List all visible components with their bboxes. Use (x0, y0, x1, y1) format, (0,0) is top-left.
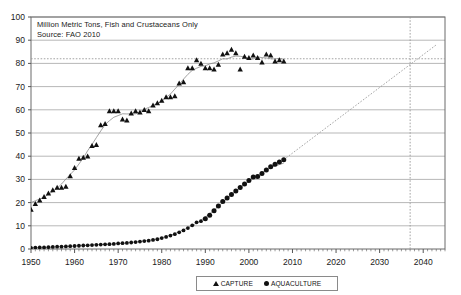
svg-text:1970: 1970 (109, 257, 128, 267)
legend-item-aquaculture: AQUACULTURE (264, 280, 321, 287)
svg-text:60: 60 (16, 105, 26, 115)
svg-text:0: 0 (20, 244, 25, 254)
svg-text:1950: 1950 (22, 257, 41, 267)
fisheries-production-chart: 0102030405060708090100 19501960197019801… (0, 0, 461, 295)
legend-item-capture: CAPTURE (213, 280, 253, 287)
svg-text:70: 70 (16, 82, 26, 92)
legend-label-capture: CAPTURE (221, 280, 253, 287)
svg-text:1980: 1980 (152, 257, 171, 267)
triangle-marker-icon (213, 281, 219, 286)
circle-marker-icon (264, 281, 269, 286)
chart-background (0, 0, 461, 295)
annotation-source: Source: FAO 2010 (37, 30, 100, 39)
svg-text:30: 30 (16, 174, 26, 184)
annotation-units: Million Metric Tons, Fish and Crustacean… (37, 20, 198, 29)
svg-text:40: 40 (16, 151, 26, 161)
svg-text:10: 10 (16, 221, 26, 231)
svg-text:2020: 2020 (327, 257, 346, 267)
chart-legend: CAPTURE AQUACULTURE (196, 276, 338, 291)
svg-text:20: 20 (16, 198, 26, 208)
legend-label-aquaculture: AQUACULTURE (271, 280, 321, 287)
svg-text:1960: 1960 (65, 257, 84, 267)
svg-text:2030: 2030 (370, 257, 389, 267)
svg-text:90: 90 (16, 35, 26, 45)
svg-text:100: 100 (11, 12, 25, 22)
svg-text:2000: 2000 (239, 257, 258, 267)
svg-text:80: 80 (16, 58, 26, 68)
chart-container: 0102030405060708090100 19501960197019801… (0, 0, 461, 295)
svg-text:1990: 1990 (196, 257, 215, 267)
svg-text:2040: 2040 (414, 257, 433, 267)
svg-text:2010: 2010 (283, 257, 302, 267)
svg-text:50: 50 (16, 128, 26, 138)
